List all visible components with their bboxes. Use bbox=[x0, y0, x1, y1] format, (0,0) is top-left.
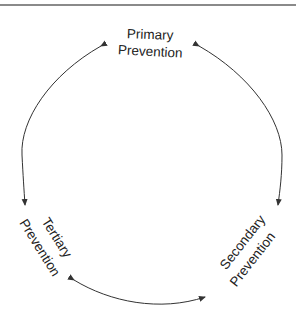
primary-line1: Primary bbox=[127, 26, 174, 43]
node-secondary-prevention: Secondary Prevention bbox=[217, 212, 279, 289]
arrow-tertiary-secondary bbox=[74, 280, 205, 304]
node-primary-prevention: Primary Prevention bbox=[118, 26, 183, 60]
prevention-cycle-diagram: Primary Prevention Secondary Prevention … bbox=[0, 0, 296, 321]
primary-line2: Prevention bbox=[118, 42, 183, 60]
arrow-primary-secondary bbox=[199, 46, 282, 205]
arrow-primary-tertiary bbox=[22, 46, 101, 205]
node-tertiary-prevention: Tertiary Prevention bbox=[16, 215, 75, 279]
